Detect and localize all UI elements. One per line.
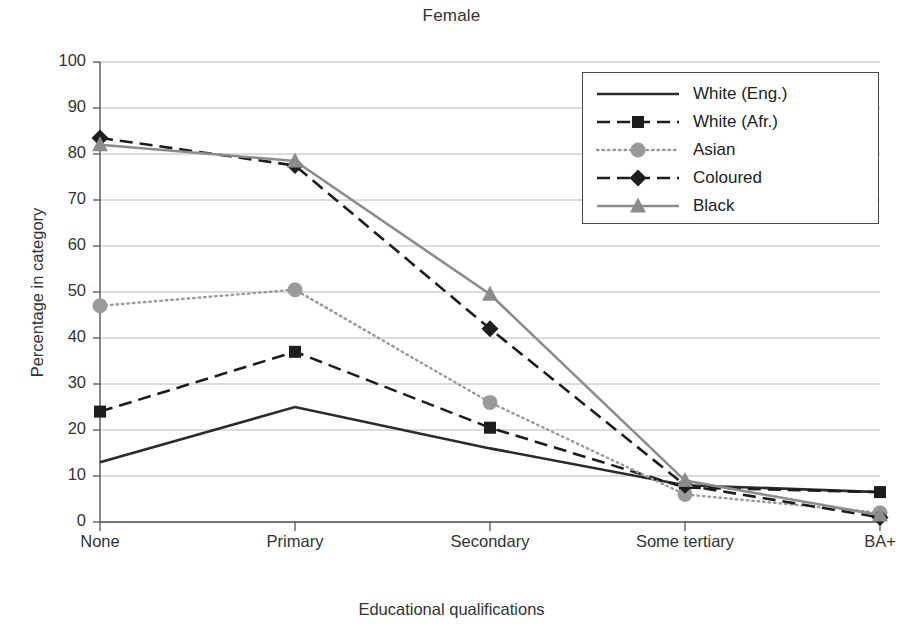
y-tick-label: 30 [30, 373, 86, 392]
legend-item[interactable]: Asian [583, 136, 880, 164]
chart-container: Female Percentage in category Educationa… [0, 0, 903, 644]
data-point-marker [483, 395, 498, 410]
y-tick-label: 70 [30, 189, 86, 208]
legend-marker [631, 143, 646, 158]
y-tick-label: 10 [30, 465, 86, 484]
legend-label: Asian [693, 140, 736, 160]
y-tick-label: 100 [30, 51, 86, 70]
y-tick-label: 0 [30, 511, 86, 530]
x-tick-label: Secondary [451, 532, 530, 551]
legend-label: White (Eng.) [693, 84, 787, 104]
legend-swatch [583, 166, 693, 190]
data-point-marker [93, 298, 108, 313]
legend-marker [630, 170, 647, 187]
y-tick-label: 50 [30, 281, 86, 300]
x-tick-label: None [80, 532, 119, 551]
legend-item[interactable]: Black [583, 192, 880, 220]
legend-item[interactable]: White (Afr.) [583, 108, 880, 136]
x-axis-ticks [100, 522, 880, 531]
data-point-marker [874, 486, 886, 498]
legend-item[interactable]: Coloured [583, 164, 880, 192]
y-tick-label: 40 [30, 327, 86, 346]
legend-swatch [583, 82, 693, 106]
legend-item[interactable]: White (Eng.) [583, 80, 880, 108]
y-tick-label: 90 [30, 97, 86, 116]
data-point-marker [94, 406, 106, 418]
y-tick-label: 20 [30, 419, 86, 438]
legend-label: Coloured [693, 168, 762, 188]
legend-swatch [583, 194, 693, 218]
data-point-marker [484, 422, 496, 434]
data-point-marker [289, 346, 301, 358]
series-line [93, 282, 888, 520]
legend-marker [632, 116, 644, 128]
x-tick-label: BA+ [864, 532, 896, 551]
data-point-marker [288, 282, 303, 297]
x-tick-label: Some tertiary [636, 532, 734, 551]
series-line [94, 346, 886, 498]
legend[interactable]: White (Eng.)White (Afr.)AsianColouredBla… [582, 72, 879, 224]
legend-label: White (Afr.) [693, 112, 778, 132]
y-tick-label: 60 [30, 235, 86, 254]
legend-label: Black [693, 196, 735, 216]
data-point-marker [482, 286, 498, 301]
legend-swatch [583, 110, 693, 134]
y-tick-label: 80 [30, 143, 86, 162]
x-tick-label: Primary [267, 532, 324, 551]
legend-swatch [583, 138, 693, 162]
series-line [100, 407, 880, 492]
